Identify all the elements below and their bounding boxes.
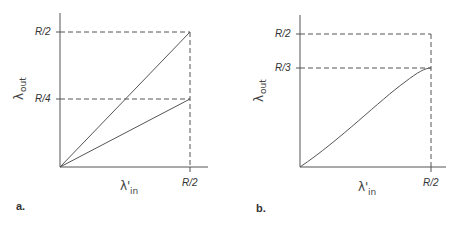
chart-b-ylabel: λ out xyxy=(252,79,268,102)
chart-a-ytick-label-r2: R/2 xyxy=(35,26,51,37)
svg-text:λ': λ' xyxy=(358,180,368,194)
chart-b-ytick-label-r2: R/2 xyxy=(275,28,291,39)
chart-b-xtick-label-r2: R/2 xyxy=(423,177,439,188)
chart-b-panel-label: b. xyxy=(256,202,266,214)
chart-b-ytick-label-r3: R/3 xyxy=(275,62,291,73)
chart-a: R/2 R/4 R/2 λ out λ' in a. xyxy=(12,13,208,212)
chart-b-xlabel: λ' in xyxy=(358,180,376,197)
svg-text:λ: λ xyxy=(12,93,26,100)
chart-a-lower-line xyxy=(60,99,190,167)
chart-a-xlabel: λ' in xyxy=(120,179,138,196)
chart-b: R/2 R/3 R/2 λ out λ' in b. xyxy=(252,15,446,214)
chart-b-curve xyxy=(300,68,431,167)
svg-text:in: in xyxy=(130,186,138,196)
svg-text:in: in xyxy=(368,187,376,197)
svg-text:out: out xyxy=(18,77,28,92)
chart-a-ylabel: λ out xyxy=(12,77,28,100)
chart-a-ytick-label-r4: R/4 xyxy=(35,93,51,104)
svg-text:λ: λ xyxy=(252,95,266,102)
chart-a-xtick-label-r2: R/2 xyxy=(182,177,198,188)
svg-text:λ': λ' xyxy=(120,179,130,193)
svg-text:out: out xyxy=(258,79,268,94)
figure: R/2 R/4 R/2 λ out λ' in a. R/2 R/3 R/2 λ… xyxy=(0,0,456,225)
chart-a-panel-label: a. xyxy=(16,200,25,212)
